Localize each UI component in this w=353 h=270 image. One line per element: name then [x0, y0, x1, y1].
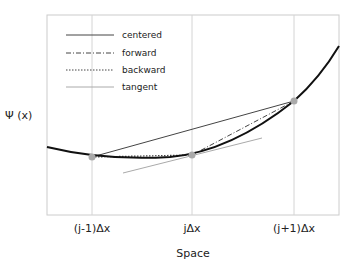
- legend-label-backward: backward: [122, 65, 166, 75]
- finite-difference-diagram: centered forward backward tangent Ψ (x) …: [0, 0, 353, 270]
- x-tick-j-plus-1: (j+1)Δx: [273, 222, 315, 235]
- point-j-minus-1: [89, 154, 96, 161]
- y-axis-label: Ψ (x): [5, 109, 32, 122]
- x-tick-j-minus-1: (j-1)Δx: [74, 222, 111, 235]
- forward-line: [192, 101, 294, 155]
- legend-label-tangent: tangent: [122, 82, 158, 92]
- x-tick-j: jΔx: [182, 222, 201, 235]
- legend-label-centered: centered: [122, 30, 162, 40]
- point-j-plus-1: [291, 98, 298, 105]
- plot-frame: [47, 15, 339, 215]
- x-axis-label: Space: [176, 247, 210, 260]
- legend: centered forward backward tangent: [66, 30, 166, 92]
- point-j: [189, 152, 196, 159]
- legend-label-forward: forward: [122, 48, 157, 58]
- centered-line: [92, 101, 294, 157]
